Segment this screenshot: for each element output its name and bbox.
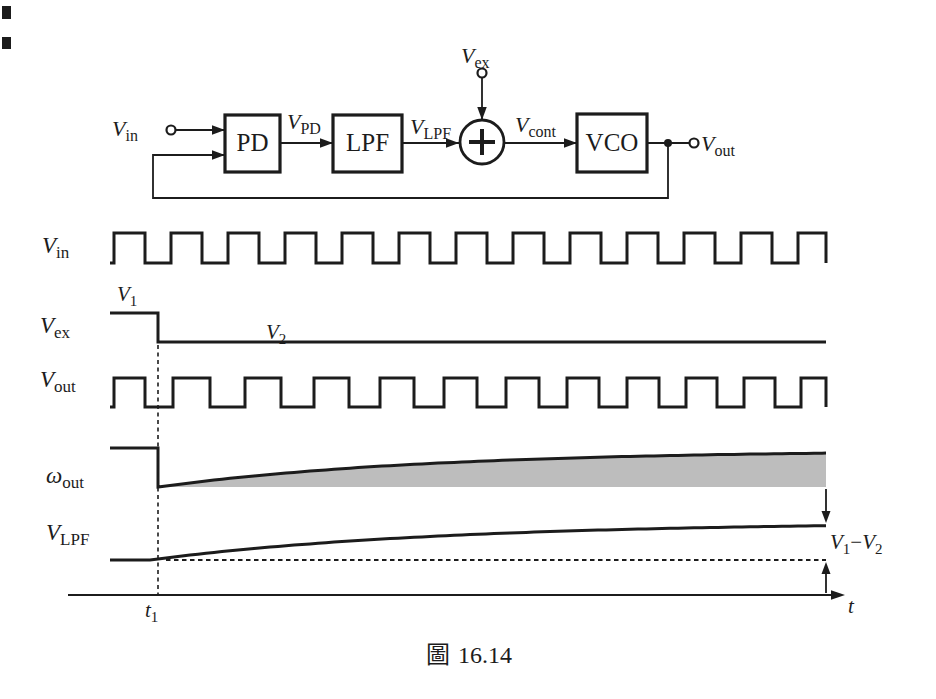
vlpf-signal-label: VLPF	[410, 114, 451, 142]
row-label-vout: Vout	[40, 367, 76, 396]
vpd-label: VPD	[287, 109, 321, 137]
down-arrow-icon	[822, 511, 831, 523]
v1-minus-v2-label: V1−V2	[830, 530, 883, 557]
t-axis-label: t	[848, 594, 855, 618]
row-label-vex: Vex	[40, 313, 71, 342]
t1-label: t1	[145, 598, 158, 625]
wout-shaded-area	[158, 453, 826, 487]
lpf-block-label: LPF	[346, 129, 389, 156]
vlpf-waveform	[110, 526, 826, 560]
vcont-label: Vcont	[515, 112, 557, 140]
vin-waveform	[110, 233, 826, 263]
v1-minus-v2-annotation: V1−V2	[822, 489, 883, 593]
scan-mark	[2, 37, 11, 49]
v2-annotation: V2	[266, 320, 286, 347]
up-arrow-icon	[822, 562, 831, 574]
time-axis-arrow-icon	[831, 590, 845, 600]
row-label-wout: ωout	[46, 463, 84, 492]
figure-caption: 圖16.14	[426, 642, 512, 668]
vin-terminal-icon	[167, 126, 176, 135]
figure-canvas: Vin PD VPD LPF VLPF Vex Vcont	[0, 0, 936, 699]
waveform-panel: Vin Vex Vout ωout VLPF V1 V2 V1−V2	[40, 233, 883, 625]
vout-waveform	[110, 378, 826, 407]
time-axis: t t1	[68, 590, 855, 625]
diagram-vout-label: Vout	[701, 131, 735, 159]
diagram-vin-label: Vin	[112, 116, 138, 144]
vex-signal-label: Vex	[461, 43, 490, 71]
vex-terminal-icon	[478, 69, 487, 78]
block-diagram: Vin PD VPD LPF VLPF Vex Vcont	[112, 43, 735, 198]
vex-waveform	[110, 313, 826, 342]
row-label-vlpf: VLPF	[46, 520, 89, 549]
vout-terminal-icon	[690, 139, 699, 148]
row-label-vin: Vin	[42, 233, 70, 262]
pd-block-label: PD	[237, 129, 269, 156]
v1-annotation: V1	[117, 282, 137, 309]
scan-mark	[2, 6, 11, 19]
figure-page: Vin PD VPD LPF VLPF Vex Vcont	[0, 0, 936, 699]
vco-block-label: VCO	[586, 129, 639, 156]
